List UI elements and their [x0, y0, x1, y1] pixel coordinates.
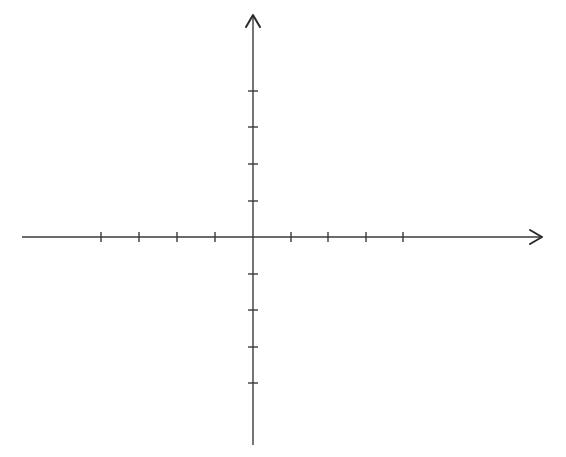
- x-axis: [22, 230, 542, 244]
- y-axis: [246, 15, 260, 445]
- coordinate-plane: [0, 0, 566, 457]
